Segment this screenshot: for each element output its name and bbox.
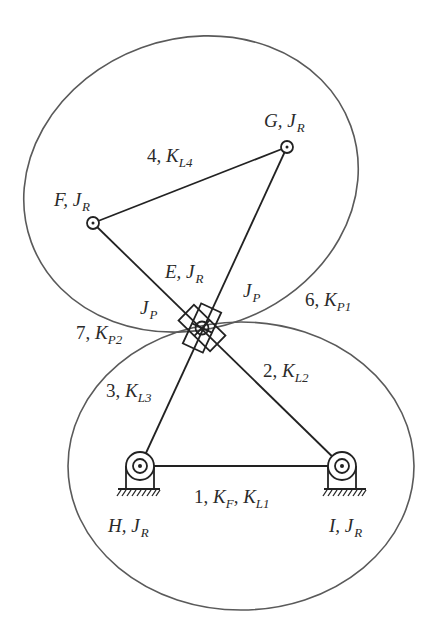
label-E: E, JR [164,261,204,286]
linkage-diagram: G, JR 4, KL4 F, JR E, JR JP JP 6, KP1 7,… [0,0,440,633]
label-F: F, JR [53,189,90,214]
label-loop-7: 7, KP2 [76,322,123,347]
label-loop-6: 6, KP1 [305,289,351,314]
label-I: I, JR [328,515,362,540]
ground-support-I-icon [323,452,366,496]
label-link-3: 3, KL3 [106,380,152,405]
label-G: G, JR [264,110,305,135]
joint-F-icon [87,217,99,229]
label-link-4: 4, KL4 [147,145,193,170]
link-GH [140,147,287,466]
label-jp-right: JP [243,280,260,305]
label-link-1: 1, KF, KL1 [194,486,270,511]
label-H: H, JR [107,515,149,540]
ground-support-H-icon [117,452,160,496]
joint-G-icon [281,141,293,153]
label-link-2: 2, KL2 [263,360,309,385]
label-jp-left: JP [140,297,157,322]
